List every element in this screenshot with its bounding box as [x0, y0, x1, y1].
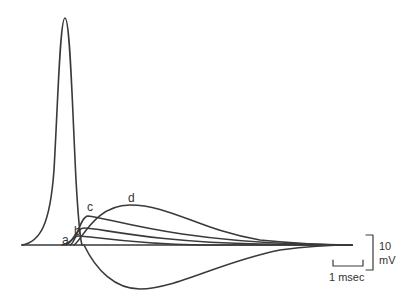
label-c: c [87, 201, 93, 213]
label-a: a [62, 234, 69, 246]
curve-c [70, 216, 352, 245]
label-b: b [74, 225, 81, 237]
time-scale-bar [333, 260, 363, 266]
voltage-scale-unit: mV [379, 254, 396, 266]
negative-curve [84, 245, 352, 289]
curve-b [66, 228, 352, 245]
voltage-scale-value: 10 [379, 240, 391, 252]
label-d: d [128, 192, 135, 204]
time-scale-label: 1 msec [329, 271, 364, 283]
waveform-plot [0, 0, 413, 301]
voltage-scale-bar [366, 235, 373, 270]
spike-curve [22, 18, 82, 245]
curve-d [74, 205, 352, 245]
